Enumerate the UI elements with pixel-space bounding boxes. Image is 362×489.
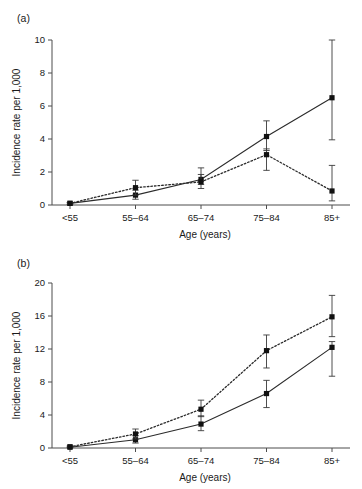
- panel-a: (a) 0246810<5555–6465–7475–8485+Age (yea…: [0, 0, 362, 245]
- data-point-marker: [329, 95, 334, 100]
- x-category-label: 75–84: [253, 212, 279, 223]
- series-line-solid: [70, 347, 332, 447]
- x-category-label: 65–74: [188, 455, 214, 466]
- data-point-marker: [67, 201, 72, 206]
- panel-b-plot: 048121620<5555–6465–7475–8485+Age (years…: [0, 245, 362, 489]
- y-tick-label: 6: [40, 100, 45, 111]
- data-point-marker: [329, 314, 334, 319]
- y-tick-label: 10: [34, 34, 45, 45]
- data-point-marker: [329, 188, 334, 193]
- data-point-marker: [133, 185, 138, 190]
- y-axis-title: Incidence rate per 1,000: [11, 311, 22, 419]
- panel-b: (b) 048121620<5555–6465–7475–8485+Age (y…: [0, 245, 362, 489]
- error-bar: [329, 40, 335, 140]
- y-tick-label: 0: [40, 199, 45, 210]
- y-tick-label: 12: [34, 343, 45, 354]
- x-category-label: 85+: [324, 212, 341, 223]
- data-point-marker: [198, 179, 203, 184]
- y-tick-label: 20: [34, 277, 45, 288]
- data-point-marker: [264, 348, 269, 353]
- x-category-label: <55: [62, 455, 78, 466]
- data-point-marker: [133, 431, 138, 436]
- data-point-marker: [198, 407, 203, 412]
- y-tick-label: 0: [40, 442, 45, 453]
- x-axis-title: Age (years): [179, 229, 231, 240]
- y-tick-label: 4: [40, 133, 45, 144]
- x-category-label: 75–84: [253, 455, 279, 466]
- y-tick-label: 4: [40, 409, 45, 420]
- x-category-label: <55: [62, 212, 78, 223]
- panel-a-plot: 0246810<5555–6465–7475–8485+Age (years)I…: [0, 0, 362, 245]
- y-tick-label: 16: [34, 310, 45, 321]
- data-point-marker: [198, 421, 203, 426]
- x-category-label: 55–64: [122, 212, 148, 223]
- data-point-marker: [264, 391, 269, 396]
- data-point-marker: [67, 444, 72, 449]
- figure-container: (a) 0246810<5555–6465–7475–8485+Age (yea…: [0, 0, 362, 489]
- x-category-label: 65–74: [188, 212, 214, 223]
- x-category-label: 55–64: [122, 455, 148, 466]
- y-tick-label: 8: [40, 67, 45, 78]
- y-axis-title: Incidence rate per 1,000: [11, 68, 22, 176]
- x-category-label: 85+: [324, 455, 341, 466]
- data-point-marker: [329, 345, 334, 350]
- data-point-marker: [264, 134, 269, 139]
- x-axis-title: Age (years): [179, 472, 231, 483]
- error-bar: [329, 165, 335, 200]
- data-point-marker: [264, 152, 269, 157]
- y-tick-label: 8: [40, 376, 45, 387]
- y-tick-label: 2: [40, 166, 45, 177]
